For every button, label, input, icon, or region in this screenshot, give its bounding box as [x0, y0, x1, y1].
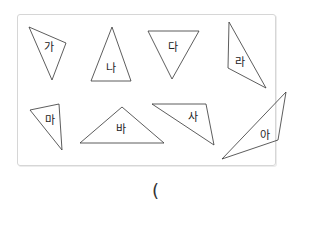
triangle-sa: 사 — [152, 104, 214, 145]
triangle-ba: 바 — [80, 107, 164, 143]
triangle-shape — [222, 92, 286, 159]
triangle-na: 나 — [91, 27, 131, 81]
triangle-da: 다 — [148, 31, 199, 79]
triangle-label: 나 — [106, 62, 116, 75]
triangle-ma: 마 — [30, 104, 62, 150]
triangle-label: 아 — [260, 129, 270, 142]
triangle-ra: 라 — [228, 22, 266, 88]
answer-blank[interactable]: ( — [152, 180, 159, 202]
triangle-shape — [152, 104, 214, 145]
triangle-label: 바 — [116, 123, 126, 136]
triangle-label: 라 — [235, 56, 245, 69]
triangle-label: 마 — [45, 114, 55, 127]
triangle-shape — [29, 27, 66, 80]
triangle-label: 사 — [188, 111, 198, 124]
triangle-a: 아 — [222, 92, 286, 159]
triangle-shape — [228, 22, 266, 88]
open-paren: ( — [152, 180, 159, 201]
triangle-ga: 가 — [29, 27, 66, 80]
triangle-shape — [30, 104, 62, 150]
triangle-shape — [148, 31, 199, 79]
triangle-label: 다 — [168, 41, 178, 54]
triangle-label: 가 — [44, 41, 54, 54]
